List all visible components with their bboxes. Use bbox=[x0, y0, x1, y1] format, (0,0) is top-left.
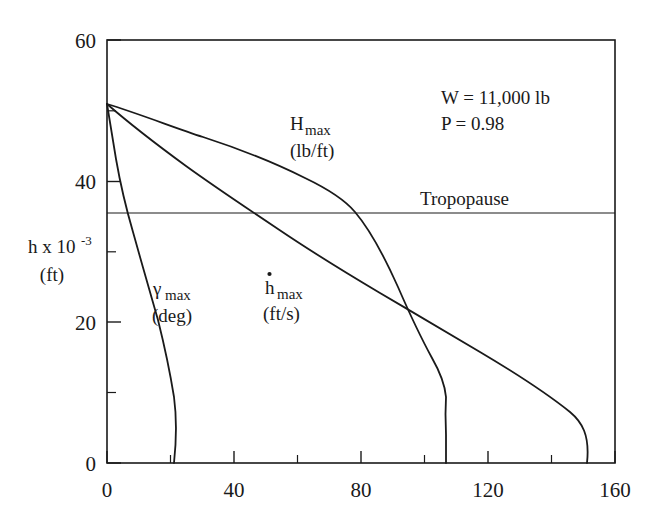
y-axis-title-units: (ft) bbox=[40, 264, 64, 286]
x-tick-label-80: 80 bbox=[351, 478, 372, 502]
label-h-dot-max-units: (ft/s) bbox=[263, 303, 300, 325]
x-tick-label-120: 120 bbox=[472, 478, 504, 502]
label-gamma-max-units: (deg) bbox=[152, 305, 192, 327]
label-h-max-main: H bbox=[290, 113, 304, 134]
y-tick-label-0: 0 bbox=[86, 452, 97, 476]
y-axis-title-exponent: -3 bbox=[81, 233, 92, 248]
h-dot-overdot-icon bbox=[267, 272, 271, 276]
label-h-dot-max: h max (ft/s) bbox=[263, 272, 303, 325]
annotation-power-setting: P = 0.98 bbox=[441, 113, 504, 134]
x-tick-label-40: 40 bbox=[224, 478, 245, 502]
label-gamma-max-sub: max bbox=[165, 287, 191, 303]
label-h-max: H max (lb/ft) bbox=[290, 113, 334, 162]
y-tick-label-20: 20 bbox=[75, 311, 96, 335]
y-axis-title: h x 10 -3 (ft) bbox=[28, 233, 92, 286]
label-h-dot-max-sub: max bbox=[277, 286, 303, 302]
label-gamma-max: γ max (deg) bbox=[152, 278, 192, 327]
label-h-dot-max-main: h bbox=[265, 277, 275, 298]
x-axis-major-ticks bbox=[107, 451, 615, 463]
tropopause-label: Tropopause bbox=[420, 188, 509, 209]
curve-gamma-max bbox=[107, 104, 176, 463]
label-gamma-max-main: γ bbox=[152, 278, 161, 299]
performance-chart: 60 40 20 0 0 40 80 120 160 h x 10 -3 (ft… bbox=[0, 0, 660, 521]
y-tick-label-40: 40 bbox=[75, 170, 96, 194]
annotation-weight: W = 11,000 lb bbox=[441, 87, 550, 108]
y-tick-label-60: 60 bbox=[75, 29, 96, 53]
x-tick-label-160: 160 bbox=[599, 478, 631, 502]
label-h-max-units: (lb/ft) bbox=[290, 140, 334, 162]
chart-page: 60 40 20 0 0 40 80 120 160 h x 10 -3 (ft… bbox=[0, 0, 660, 521]
curve-h-dot-max bbox=[107, 104, 588, 463]
label-h-max-sub: max bbox=[305, 122, 331, 138]
y-axis-title-main: h x 10 bbox=[28, 236, 76, 257]
x-tick-label-0: 0 bbox=[102, 478, 113, 502]
